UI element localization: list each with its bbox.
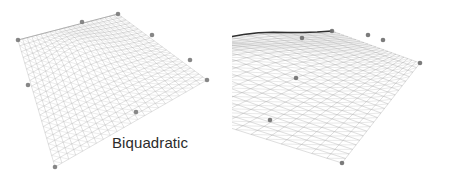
surface-comparison-figure: Biquadratic Bicubic: [0, 0, 464, 178]
control-point-marker: [330, 29, 335, 34]
control-point-marker: [381, 38, 386, 43]
control-point-marker: [294, 76, 299, 81]
control-point-marker: [134, 110, 139, 115]
control-point-marker: [116, 12, 121, 17]
control-point-marker: [418, 61, 423, 66]
biquadratic-surface-mesh: [0, 0, 232, 178]
biquadratic-caption: Biquadratic: [112, 134, 188, 151]
panel-bicubic: Bicubic: [232, 0, 464, 178]
control-point-marker: [205, 78, 210, 83]
control-point-marker: [26, 83, 31, 88]
control-point-marker: [150, 33, 155, 38]
control-point-marker: [366, 33, 371, 38]
panel-biquadratic: Biquadratic: [0, 0, 232, 178]
control-point-marker: [340, 161, 345, 166]
control-point-marker: [16, 38, 21, 43]
bicubic-surface-mesh: [232, 0, 464, 178]
control-point-marker: [53, 165, 58, 170]
control-point-marker: [80, 20, 85, 25]
control-point-marker: [188, 58, 193, 63]
control-point-marker: [300, 36, 305, 41]
control-point-marker: [268, 118, 273, 123]
